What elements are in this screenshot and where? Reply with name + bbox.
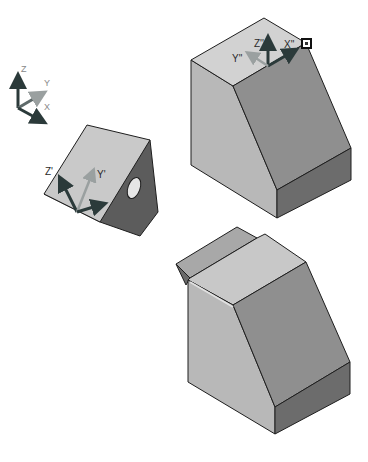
- lower-block: [176, 227, 350, 434]
- world-z-label: Z: [21, 64, 27, 74]
- wedge-part: Z' Y': [44, 125, 158, 236]
- wedge-z-label: Z': [45, 166, 53, 177]
- world-triad: Z Y X: [18, 64, 50, 120]
- marker-dot: [305, 42, 308, 45]
- wedge-y-label: Y': [97, 169, 106, 180]
- upper-y-label: Y'': [232, 53, 243, 64]
- world-x-label: X: [44, 102, 50, 112]
- upper-block: Z'' X'' Y'': [191, 18, 351, 218]
- world-y-label: Y: [44, 78, 50, 88]
- figure-canvas: Z Y X Z' Y' Z'' X'' Y'': [0, 0, 368, 462]
- upper-z-label: Z'': [254, 38, 264, 49]
- world-y-axis-icon: [18, 95, 40, 108]
- world-x-axis-icon: [18, 108, 40, 120]
- figure-svg: Z Y X Z' Y' Z'' X'' Y'': [0, 0, 368, 462]
- upper-x-label: X'': [284, 39, 295, 50]
